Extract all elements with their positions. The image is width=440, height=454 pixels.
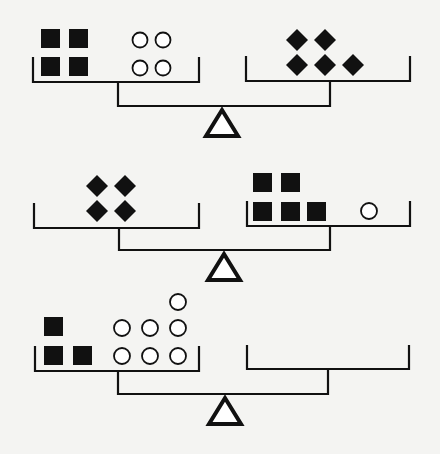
white-circle-weight-icon bbox=[170, 320, 186, 336]
balance-scale-3 bbox=[35, 294, 409, 424]
white-circle-weight-icon bbox=[142, 348, 158, 364]
black-square-weight-icon bbox=[253, 202, 272, 221]
balance-beam bbox=[119, 226, 330, 250]
balance-beam bbox=[118, 81, 330, 106]
black-diamond-weight-icon bbox=[114, 175, 136, 197]
black-square-weight-icon bbox=[41, 29, 60, 48]
right-pan bbox=[247, 346, 409, 369]
black-square-weight-icon bbox=[281, 202, 300, 221]
balance-beam bbox=[118, 369, 328, 394]
fulcrum-triangle-icon bbox=[209, 398, 241, 424]
fulcrum-triangle-icon bbox=[206, 110, 238, 136]
black-square-weight-icon bbox=[41, 57, 60, 76]
white-circle-weight-icon bbox=[361, 203, 377, 219]
black-diamond-weight-icon bbox=[314, 54, 336, 76]
black-diamond-weight-icon bbox=[86, 175, 108, 197]
black-diamond-weight-icon bbox=[286, 54, 308, 76]
black-square-weight-icon bbox=[307, 202, 326, 221]
white-circle-weight-icon bbox=[114, 348, 130, 364]
diagram-canvas bbox=[0, 0, 440, 454]
black-diamond-weight-icon bbox=[86, 200, 108, 222]
black-square-weight-icon bbox=[69, 29, 88, 48]
balance-scales-diagram bbox=[0, 0, 440, 454]
white-circle-weight-icon bbox=[114, 320, 130, 336]
black-square-weight-icon bbox=[73, 346, 92, 365]
black-diamond-weight-icon bbox=[342, 54, 364, 76]
white-circle-weight-icon bbox=[133, 61, 148, 76]
black-square-weight-icon bbox=[253, 173, 272, 192]
white-circle-weight-icon bbox=[133, 33, 148, 48]
white-circle-weight-icon bbox=[142, 320, 158, 336]
black-square-weight-icon bbox=[69, 57, 88, 76]
black-square-weight-icon bbox=[44, 317, 63, 336]
fulcrum-triangle-icon bbox=[208, 254, 240, 280]
balance-scale-1 bbox=[33, 29, 410, 136]
left-pan bbox=[34, 204, 199, 228]
black-square-weight-icon bbox=[281, 173, 300, 192]
white-circle-weight-icon bbox=[156, 33, 171, 48]
black-diamond-weight-icon bbox=[286, 29, 308, 51]
balance-scale-2 bbox=[34, 173, 410, 280]
white-circle-weight-icon bbox=[170, 348, 186, 364]
white-circle-weight-icon bbox=[156, 61, 171, 76]
black-diamond-weight-icon bbox=[314, 29, 336, 51]
black-square-weight-icon bbox=[44, 346, 63, 365]
black-diamond-weight-icon bbox=[114, 200, 136, 222]
white-circle-weight-icon bbox=[170, 294, 186, 310]
